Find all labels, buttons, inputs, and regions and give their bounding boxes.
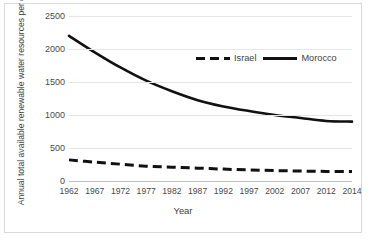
x-tick-label: 1982 [162, 186, 181, 196]
line-israel [69, 160, 352, 172]
x-tick-label: 2007 [291, 186, 310, 196]
legend-label-israel: Israel [234, 53, 256, 63]
gridline [69, 148, 352, 149]
x-tick-label: 2012 [317, 186, 336, 196]
series-lines [69, 16, 352, 181]
chart-legend: Israel Morocco [196, 51, 337, 65]
x-tick-label: 1967 [85, 186, 104, 196]
x-tick-label: 1977 [137, 186, 156, 196]
y-tick-label: 500 [25, 143, 65, 153]
x-axis-tick-labels: 1962196719721977198219871992199720022007… [60, 186, 361, 200]
y-tick-label: 1500 [25, 77, 65, 87]
x-tick-label: 2014 [342, 186, 361, 196]
legend-swatch-dashed-icon [196, 57, 230, 60]
y-tick-label: 1000 [25, 110, 65, 120]
legend-item-israel: Israel [196, 53, 256, 63]
gridline [69, 115, 352, 116]
gridline [69, 82, 352, 83]
legend-label-morocco: Morocco [301, 53, 336, 63]
legend-item-morocco: Morocco [263, 53, 336, 63]
y-tick-label: 2000 [25, 44, 65, 54]
chart-figure: Annual total available renewable water r… [0, 0, 377, 242]
x-axis-line [69, 181, 352, 182]
y-tick-label: 2500 [25, 11, 65, 21]
gridline [69, 49, 352, 50]
x-tick-label: 1962 [59, 186, 78, 196]
y-tick-label: 0 [25, 176, 65, 186]
x-tick-label: 1997 [240, 186, 259, 196]
gridline [69, 16, 352, 17]
x-tick-label: 1987 [188, 186, 207, 196]
y-axis-tick-labels: 05001000150020002500 [20, 16, 65, 181]
legend-swatch-solid-icon [263, 57, 297, 60]
x-tick-label: 2002 [265, 186, 284, 196]
x-tick-label: 1992 [214, 186, 233, 196]
plot-area [69, 16, 352, 181]
x-axis-title: Year [4, 205, 362, 216]
x-tick-label: 1972 [111, 186, 130, 196]
